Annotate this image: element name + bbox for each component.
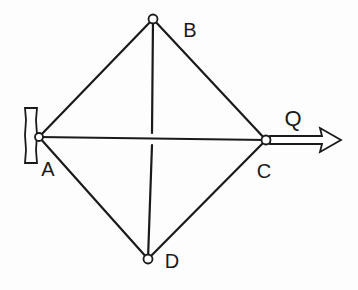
member-da	[39, 137, 148, 259]
joint-a	[35, 133, 43, 141]
member-bc	[153, 19, 266, 140]
member-bd	[152, 19, 153, 133]
member-ab	[39, 19, 153, 137]
label-c: C	[257, 161, 271, 181]
joint-c	[262, 136, 271, 145]
joint-d	[144, 255, 153, 264]
truss-diagram	[0, 0, 358, 290]
member-cd	[148, 140, 266, 259]
label-b: B	[183, 20, 196, 40]
label-d: D	[165, 251, 179, 271]
member-bd-lower	[148, 145, 152, 259]
force-arrow-q	[270, 128, 341, 152]
label-q-force: Q	[284, 108, 301, 130]
label-a: A	[41, 159, 54, 179]
joint-b	[149, 15, 158, 24]
member-ac	[39, 137, 266, 140]
